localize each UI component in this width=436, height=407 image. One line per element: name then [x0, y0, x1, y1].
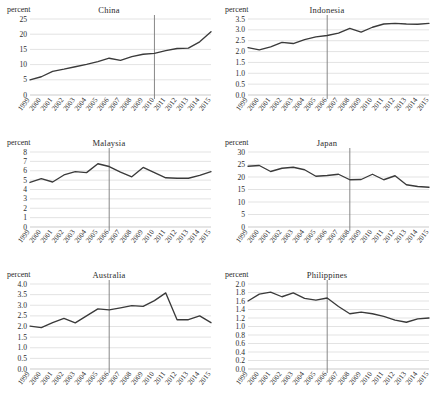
svg-text:5: 5 — [23, 176, 27, 185]
svg-text:3.5: 3.5 — [236, 15, 246, 24]
svg-text:30: 30 — [237, 148, 245, 157]
svg-text:2.5: 2.5 — [236, 36, 246, 45]
svg-text:10: 10 — [19, 60, 27, 69]
panel-australia: percent Australia 0.00.51.01.52.02.53.03… — [0, 265, 218, 407]
svg-text:6: 6 — [23, 166, 27, 175]
svg-text:20: 20 — [19, 30, 27, 39]
svg-text:2015: 2015 — [197, 96, 212, 113]
svg-text:25: 25 — [237, 160, 245, 169]
chart-japan: 0510152025301999200020012002200320042005… — [218, 133, 436, 265]
svg-text:2: 2 — [23, 204, 27, 213]
panel-japan: percent Japan 05101520253019992000200120… — [218, 133, 436, 265]
svg-text:0.2: 0.2 — [236, 356, 246, 365]
panel-china: percent China 05101520251999200020012002… — [0, 0, 218, 133]
svg-text:1.2: 1.2 — [236, 314, 246, 323]
svg-text:0.4: 0.4 — [236, 348, 246, 357]
svg-text:20: 20 — [237, 173, 245, 182]
svg-text:2.5: 2.5 — [18, 311, 28, 320]
svg-text:8: 8 — [23, 148, 27, 157]
chart-grid: percent China 05101520251999200020012002… — [0, 0, 436, 407]
svg-text:2015: 2015 — [415, 96, 430, 113]
chart-australia: 0.00.51.01.52.02.53.03.54.01999200020012… — [0, 265, 218, 407]
svg-text:0.5: 0.5 — [18, 354, 28, 363]
svg-text:3.0: 3.0 — [236, 25, 246, 34]
svg-text:5: 5 — [23, 75, 27, 84]
svg-text:3: 3 — [23, 194, 27, 203]
svg-text:1: 1 — [23, 213, 27, 222]
svg-text:2015: 2015 — [415, 228, 430, 245]
svg-text:2.0: 2.0 — [236, 47, 246, 56]
svg-text:2.0: 2.0 — [18, 322, 28, 331]
panel-indonesia: percent Indonesia 0.00.51.01.52.02.53.03… — [218, 0, 436, 133]
svg-text:2015: 2015 — [197, 228, 212, 245]
svg-text:15: 15 — [19, 45, 27, 54]
svg-text:1.5: 1.5 — [236, 58, 246, 67]
panel-philippines: percent Philippines 0.00.20.40.60.81.01.… — [218, 265, 436, 407]
svg-text:3.5: 3.5 — [18, 290, 28, 299]
svg-text:1.8: 1.8 — [236, 288, 246, 297]
svg-text:1.4: 1.4 — [236, 305, 246, 314]
svg-text:3.0: 3.0 — [18, 301, 28, 310]
panel-malaysia: percent Malaysia 01234567819992000200120… — [0, 133, 218, 265]
svg-text:0.8: 0.8 — [236, 331, 246, 340]
chart-philippines: 0.00.20.40.60.81.01.21.41.61.82.01999200… — [218, 265, 436, 407]
svg-text:1.0: 1.0 — [236, 69, 246, 78]
chart-indonesia: 0.00.51.01.52.02.53.03.51999200020012002… — [218, 0, 436, 133]
svg-text:10: 10 — [237, 198, 245, 207]
svg-text:2.0: 2.0 — [236, 280, 246, 289]
svg-text:0.5: 0.5 — [236, 80, 246, 89]
svg-text:1.6: 1.6 — [236, 297, 246, 306]
svg-text:0.6: 0.6 — [236, 339, 246, 348]
svg-text:25: 25 — [19, 15, 27, 24]
svg-text:1.0: 1.0 — [236, 322, 246, 331]
svg-text:1.5: 1.5 — [18, 333, 28, 342]
svg-text:4.0: 4.0 — [18, 280, 28, 289]
chart-china: 0510152025199920002001200220032004200520… — [0, 0, 218, 133]
svg-text:15: 15 — [237, 185, 245, 194]
svg-text:2015: 2015 — [197, 370, 212, 387]
svg-text:2015: 2015 — [415, 370, 430, 387]
svg-text:5: 5 — [241, 210, 245, 219]
svg-text:7: 7 — [23, 157, 27, 166]
chart-malaysia: 0123456781999200020012002200320042005200… — [0, 133, 218, 265]
svg-text:1.0: 1.0 — [18, 343, 28, 352]
svg-text:4: 4 — [23, 185, 27, 194]
